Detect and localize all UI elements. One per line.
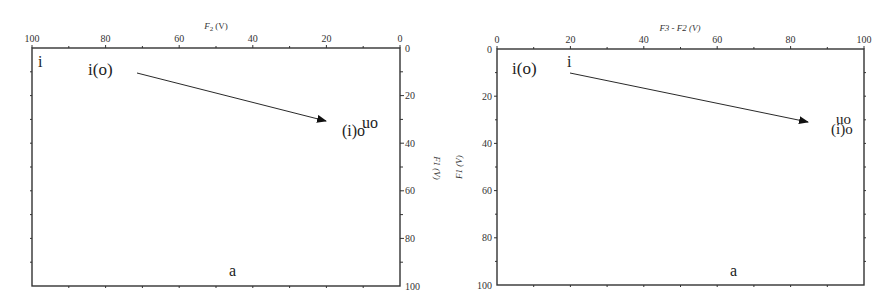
right-x-tick-label: 80 bbox=[786, 34, 796, 45]
right-x-tick-labels: 0 20 40 60 80 100 bbox=[495, 34, 872, 45]
left-y-tick-label: 40 bbox=[405, 138, 415, 149]
left-y-tick-label: 20 bbox=[405, 90, 415, 101]
right-y-tick-label: 80 bbox=[482, 232, 492, 243]
figure-canvas: 100 80 60 40 20 0 F2(V) 0 20 40 60 80 10… bbox=[0, 0, 890, 304]
right-y-tick-label: 20 bbox=[482, 91, 492, 102]
right-label-i: i bbox=[567, 53, 572, 70]
left-x-ticks bbox=[30, 45, 404, 288]
left-x-axis-title: F2(V) bbox=[203, 21, 228, 33]
right-y-tick-label: 100 bbox=[477, 280, 492, 291]
left-chart: 100 80 60 40 20 0 F2(V) 0 20 40 60 80 10… bbox=[25, 21, 443, 292]
right-x-tick-label: 20 bbox=[565, 34, 575, 45]
right-y-tick-label: 60 bbox=[482, 185, 492, 196]
right-x-tick-label: 100 bbox=[857, 34, 872, 45]
left-label-i-o: i(o) bbox=[88, 60, 113, 79]
left-x-tick-label: 80 bbox=[101, 33, 111, 44]
right-x-tick-label: 40 bbox=[639, 34, 649, 45]
right-chart: 0 20 40 60 80 100 F3 - F2 (V) 0 20 40 60… bbox=[454, 23, 872, 291]
left-y-tick-label: 60 bbox=[405, 185, 415, 196]
left-label-i: i bbox=[38, 53, 43, 70]
left-y-tick-label: 80 bbox=[405, 233, 415, 244]
right-y-axis-title: F1 (V) bbox=[454, 155, 464, 180]
right-trajectory-arrow bbox=[570, 73, 808, 122]
right-label-paren-i-o: (i)o bbox=[831, 121, 853, 138]
right-x-tick-label: 0 bbox=[495, 34, 500, 45]
right-y-tick-labels: 0 20 40 60 80 100 bbox=[477, 44, 492, 291]
right-x-ticks bbox=[494, 46, 866, 287]
left-x-tick-labels: 100 80 60 40 20 0 bbox=[25, 33, 403, 44]
right-x-axis-title: F3 - F2 (V) bbox=[658, 23, 700, 33]
right-plot-frame bbox=[497, 49, 864, 285]
left-x-tick-label: 0 bbox=[398, 33, 403, 44]
right-label-i-o: i(o) bbox=[512, 59, 537, 78]
left-y-axis-title: F1 (V) bbox=[432, 155, 442, 180]
left-x-tick-label: 20 bbox=[321, 33, 331, 44]
right-x-tick-label: 60 bbox=[712, 34, 722, 45]
left-x-tick-label: 40 bbox=[248, 33, 258, 44]
right-y-tick-label: 0 bbox=[487, 44, 492, 55]
left-trajectory-arrow bbox=[137, 73, 326, 121]
left-x-tick-label: 100 bbox=[25, 33, 40, 44]
left-plot-frame bbox=[32, 48, 400, 286]
left-label-a: a bbox=[229, 262, 236, 279]
left-x-tick-label: 60 bbox=[174, 33, 184, 44]
left-label-u-o: uo bbox=[362, 114, 378, 131]
left-y-tick-labels: 0 20 40 60 80 100 bbox=[405, 43, 420, 292]
left-y-tick-label: 0 bbox=[405, 43, 410, 54]
left-y-tick-label: 100 bbox=[405, 281, 420, 292]
right-label-a: a bbox=[730, 262, 737, 279]
right-y-tick-label: 40 bbox=[482, 138, 492, 149]
